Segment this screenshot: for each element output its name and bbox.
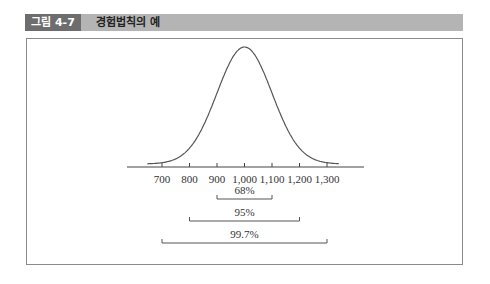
x-tick-label: 700 xyxy=(154,173,171,185)
x-tick-label: 1,100 xyxy=(260,173,285,185)
interval-label: 99.7% xyxy=(230,228,258,240)
x-tick-label: 900 xyxy=(209,173,226,185)
interval-label: 95% xyxy=(234,206,254,218)
x-tick-label: 1,200 xyxy=(287,173,312,185)
interval-label: 68% xyxy=(234,184,254,196)
interval-brackets: 68%95%99.7% xyxy=(162,184,327,243)
normal-distribution-chart: 7008009001,0001,1001,2001,300 68%95%99.7… xyxy=(0,0,490,284)
x-tick-label: 800 xyxy=(181,173,198,185)
x-axis-ticks: 7008009001,0001,1001,2001,300 xyxy=(154,163,340,185)
x-tick-label: 1,300 xyxy=(315,173,340,185)
bell-curve xyxy=(147,47,338,164)
